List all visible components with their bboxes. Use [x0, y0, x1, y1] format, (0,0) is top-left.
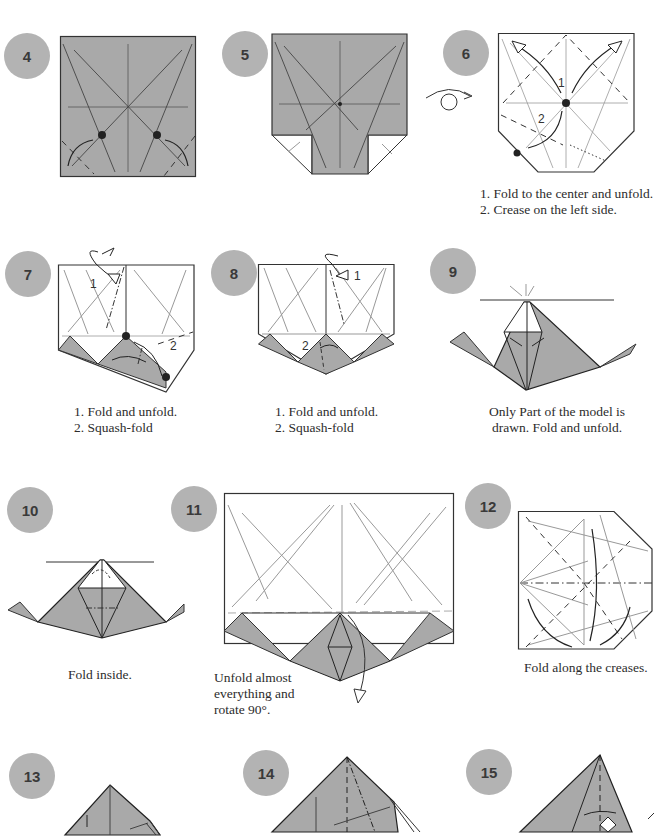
step-number: 6	[462, 45, 470, 62]
step-9-caption: Only Part of the model is drawn. Fold an…	[477, 404, 637, 436]
diagram-label-2: 2	[170, 339, 177, 353]
step-6-diagram: 1 2	[498, 33, 638, 175]
step-badge-4: 4	[4, 33, 50, 79]
step-number: 9	[449, 263, 457, 280]
step-number: 5	[241, 46, 249, 63]
step-number: 13	[24, 768, 41, 785]
step-6-caption: 1. Fold to the center and unfold. 2. Cre…	[480, 186, 653, 218]
step-10-caption: Fold inside.	[68, 667, 132, 683]
step-12-diagram	[518, 511, 658, 651]
step-badge-7: 7	[5, 251, 51, 297]
caption-line: drawn. Fold and unfold.	[477, 420, 637, 436]
step-number: 8	[230, 265, 238, 282]
step-12-caption: Fold along the creases.	[524, 660, 648, 676]
caption-line: Fold inside.	[68, 667, 132, 683]
step-5-diagram	[272, 34, 412, 176]
step-15-diagram	[520, 755, 658, 835]
step-badge-6: 6	[443, 30, 489, 76]
caption-line: 1. Fold and unfold.	[74, 404, 177, 420]
step-4-diagram	[60, 36, 200, 178]
step-9-diagram	[450, 282, 650, 392]
diagram-label-1: 1	[354, 269, 361, 283]
step-8-caption: 1. Fold and unfold. 2. Squash-fold	[275, 404, 378, 436]
turn-over-icon	[424, 86, 484, 116]
step-14-diagram	[272, 757, 437, 837]
step-badge-8: 8	[211, 250, 257, 296]
step-10-diagram	[8, 560, 188, 660]
step-7-diagram: 1 2	[58, 252, 198, 394]
step-badge-5: 5	[222, 31, 268, 77]
caption-line: everything and	[214, 686, 295, 702]
step-number: 11	[186, 501, 202, 518]
step-badge-12: 12	[465, 483, 511, 529]
diagram-label-1: 1	[558, 76, 565, 90]
step-number: 4	[23, 48, 31, 65]
caption-line: Fold along the creases.	[524, 660, 648, 676]
step-badge-10: 10	[7, 487, 53, 533]
diagram-label-1: 1	[90, 277, 97, 291]
step-8-diagram: 1 2	[258, 264, 398, 384]
caption-line: Only Part of the model is	[477, 404, 637, 420]
caption-line: 1. Fold to the center and unfold.	[480, 186, 653, 202]
caption-line: 2. Squash-fold	[275, 420, 378, 436]
caption-line: 1. Fold and unfold.	[275, 404, 378, 420]
step-badge-13: 13	[9, 753, 55, 799]
step-number: 7	[24, 266, 32, 283]
step-badge-15: 15	[466, 749, 512, 795]
step-badge-11: 11	[171, 486, 217, 532]
diagram-label-2: 2	[302, 339, 309, 353]
step-number: 10	[22, 502, 39, 519]
step-number: 12	[480, 498, 497, 515]
caption-line: 2. Crease on the left side.	[480, 202, 653, 218]
caption-line: Unfold almost	[214, 670, 295, 686]
diagram-label-2: 2	[538, 112, 545, 126]
caption-line: 2. Squash-fold	[74, 420, 177, 436]
step-number: 15	[481, 764, 498, 781]
step-7-caption: 1. Fold and unfold. 2. Squash-fold	[74, 404, 177, 436]
caption-line: rotate 90°.	[214, 702, 295, 718]
step-11-caption: Unfold almost everything and rotate 90°.	[214, 670, 295, 718]
step-13-diagram	[60, 785, 170, 835]
